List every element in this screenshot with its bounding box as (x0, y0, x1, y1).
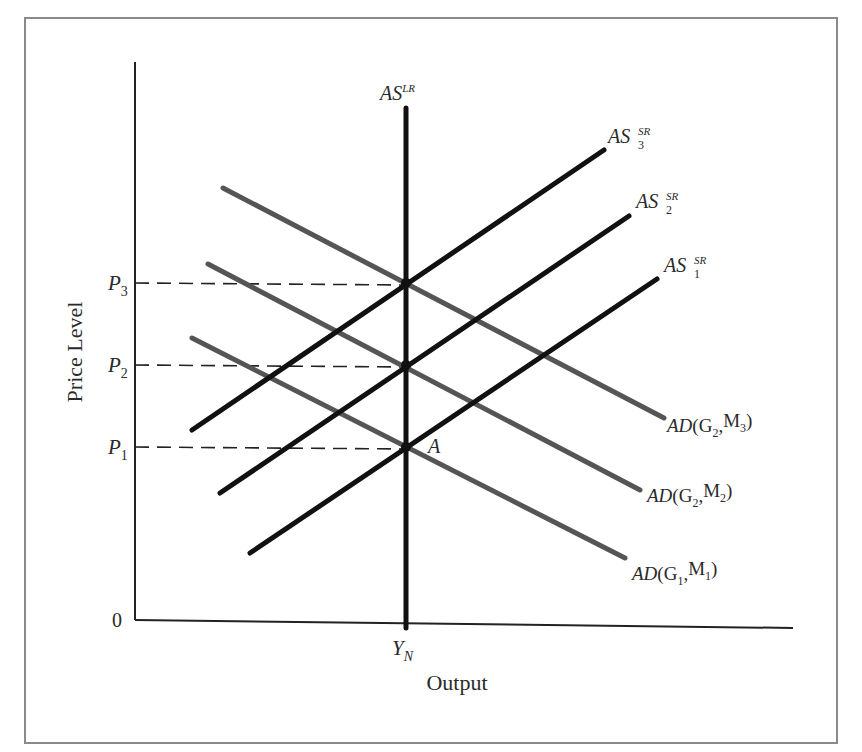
price-guide-p3 (135, 283, 406, 285)
x-axis (135, 620, 793, 628)
axes (135, 62, 793, 628)
y-axis-title: Price Level (62, 302, 87, 403)
labels: P3P2P1YNASLRASSR3ASSR2ASSR1AD(G2,M3)AD(G… (107, 82, 752, 664)
price-guide-p1 (135, 447, 406, 449)
price-guide-p2 (135, 365, 406, 367)
x-tick-label: YN (392, 636, 414, 664)
equilibrium-label: A (426, 435, 441, 457)
x-axis-title: Output (426, 670, 487, 695)
chart: P3P2P1YNASLRASSR3ASSR2ASSR1AD(G2,M3)AD(G… (0, 0, 862, 752)
curve-label-sub: 2 (666, 203, 672, 217)
aggregate-demand-curves (192, 188, 664, 558)
y-tick-label: P3 (107, 271, 128, 299)
curve-label: AD(G1,M1) (630, 558, 717, 588)
curve-label-sub: 1 (694, 267, 700, 281)
curve-label-sub: 3 (638, 138, 644, 152)
equilibrium-point (401, 442, 411, 452)
curve-label: AS (634, 190, 658, 212)
curve-label: AS (662, 254, 686, 276)
ad-curve-g2-m3 (223, 188, 664, 418)
y-tick-label: P1 (107, 435, 128, 463)
curve-label: AD(G2,M3) (665, 410, 752, 440)
equilibrium-point (401, 278, 411, 288)
curve-label: ASLR (378, 82, 415, 104)
curve-label-sup: SR (638, 125, 651, 137)
curve-label-sup: SR (694, 254, 707, 266)
aggregate-supply-curves (192, 108, 657, 628)
curve-label: AD(G2,M2) (645, 480, 732, 510)
equilibrium-point (401, 360, 411, 370)
curve-label: AS (606, 125, 630, 147)
y-tick-label: P2 (107, 353, 128, 381)
origin-label: 0 (112, 609, 122, 631)
curve-label-sup: SR (666, 190, 679, 202)
